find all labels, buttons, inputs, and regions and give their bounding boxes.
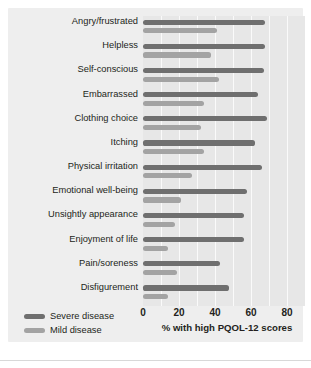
legend-item: Mild disease	[24, 324, 139, 338]
bar-row: Angry/frustrated	[143, 16, 305, 40]
category-label: Pain/soreness	[3, 258, 138, 269]
x-tick-label: 40	[209, 307, 220, 318]
bar-mild	[143, 52, 211, 57]
plot-area: Angry/frustratedHelplessSelf-consciousEm…	[143, 16, 305, 306]
bar-row: Unsightly appearance	[143, 209, 305, 233]
category-label: Clothing choice	[3, 113, 138, 124]
category-label: Emotional well-being	[3, 185, 138, 196]
bar-mild	[143, 77, 219, 82]
bar-mild	[143, 101, 204, 106]
legend-label: Severe disease	[50, 310, 114, 323]
bottom-divider	[0, 360, 311, 361]
category-label: Enjoyment of life	[3, 234, 138, 245]
category-label: Disfigurement	[3, 282, 138, 293]
bar-severe	[143, 20, 265, 25]
bar-row: Pain/soreness	[143, 258, 305, 282]
x-tick-label: 20	[173, 307, 184, 318]
bar-severe	[143, 116, 267, 121]
bar-mild	[143, 270, 177, 275]
bar-severe	[143, 92, 258, 97]
bar-row: Disfigurement	[143, 282, 305, 306]
bar-row: Helpless	[143, 40, 305, 64]
legend-swatch	[24, 328, 45, 333]
bar-row: Self-conscious	[143, 64, 305, 88]
bar-severe	[143, 44, 265, 49]
bar-rows: Angry/frustratedHelplessSelf-consciousEm…	[143, 16, 305, 306]
category-label: Itching	[3, 137, 138, 148]
bar-row: Physical irritation	[143, 161, 305, 185]
bar-severe	[143, 140, 255, 145]
bar-row: Clothing choice	[143, 113, 305, 137]
x-tick-label: 0	[140, 307, 146, 318]
category-label: Physical irritation	[3, 161, 138, 172]
bar-severe	[143, 213, 244, 218]
bar-row: Embarrassed	[143, 89, 305, 113]
x-axis: 020406080	[143, 306, 305, 320]
bar-row: Enjoyment of life	[143, 234, 305, 258]
bar-row: Itching	[143, 137, 305, 161]
bar-severe	[143, 237, 244, 242]
bar-severe	[143, 189, 247, 194]
bar-severe	[143, 261, 220, 266]
category-label: Embarrassed	[3, 89, 138, 100]
bar-mild	[143, 294, 168, 299]
bar-mild	[143, 197, 181, 202]
legend-label: Mild disease	[50, 324, 102, 337]
bar-mild	[143, 28, 217, 33]
bar-mild	[143, 246, 168, 251]
legend-item: Severe disease	[24, 310, 139, 324]
category-label: Angry/frustrated	[3, 16, 138, 27]
bar-mild	[143, 222, 175, 227]
x-tick-label: 80	[281, 307, 292, 318]
bar-mild	[143, 149, 204, 154]
bar-mild	[143, 125, 201, 130]
category-label: Unsightly appearance	[3, 209, 138, 220]
legend-swatch	[24, 314, 45, 319]
category-label: Self-conscious	[3, 64, 138, 75]
chart-legend: Severe diseaseMild disease	[24, 310, 139, 338]
bar-severe	[143, 285, 229, 290]
category-label: Helpless	[3, 40, 138, 51]
x-tick-label: 60	[245, 307, 256, 318]
x-axis-title: % with high PQOL-12 scores	[143, 322, 311, 333]
bar-severe	[143, 68, 264, 73]
chart-figure: Angry/frustratedHelplessSelf-consciousEm…	[0, 0, 311, 368]
bar-mild	[143, 173, 192, 178]
bar-row: Emotional well-being	[143, 185, 305, 209]
bar-severe	[143, 165, 262, 170]
